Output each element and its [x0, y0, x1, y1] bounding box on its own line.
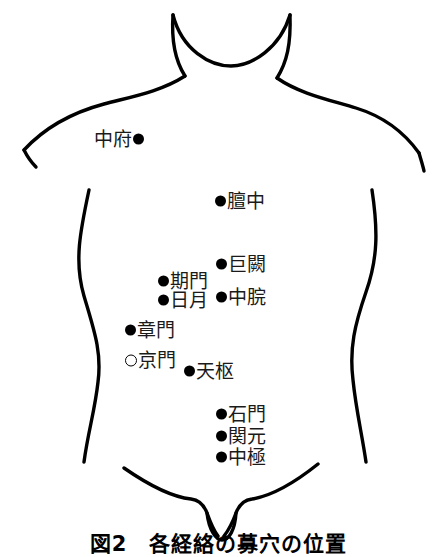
acupoint-jingmen[interactable]: 京門 — [125, 351, 176, 370]
acupoint-marker-zhongji — [216, 452, 227, 463]
acupoint-label-zhongwan: 中脘 — [228, 288, 266, 307]
acupoint-zhongfu[interactable]: 中府 — [94, 130, 144, 149]
left-torso-line — [79, 190, 99, 462]
right-groin-line — [224, 464, 318, 536]
acupoint-label-zhangmen: 章門 — [137, 321, 175, 340]
left-arm-line — [24, 150, 36, 167]
left-groin-line — [124, 468, 218, 536]
acupoint-label-guanyuan: 関元 — [228, 427, 266, 446]
acupoint-label-shimen: 石門 — [228, 405, 266, 424]
figure-caption: 図2 各経絡の募穴の位置 — [0, 527, 437, 557]
acupoint-marker-zhongfu — [133, 134, 144, 145]
right-shoulder-line — [277, 78, 419, 153]
acupoint-label-riyue: 日月 — [170, 291, 208, 310]
acupoint-danzhong[interactable]: 膻中 — [215, 192, 265, 211]
acupoint-label-jingmen: 京門 — [138, 351, 176, 370]
acupoint-tianshu[interactable]: 天枢 — [184, 362, 234, 381]
acupoint-label-danzhong: 膻中 — [227, 192, 265, 211]
acupoint-marker-riyue — [158, 295, 169, 306]
acupoint-shimen[interactable]: 石門 — [216, 405, 266, 424]
acupoint-label-zhongji: 中極 — [228, 448, 266, 467]
jaw-underside-line — [173, 15, 290, 66]
acupoint-zhangmen[interactable]: 章門 — [125, 321, 175, 340]
acupoint-zhongji[interactable]: 中極 — [216, 448, 266, 467]
acupoint-juque[interactable]: 巨闕 — [216, 255, 266, 274]
right-torso-line — [352, 190, 376, 462]
acupoint-marker-shimen — [216, 409, 227, 420]
acupoint-riyue[interactable]: 日月 — [158, 291, 208, 310]
acupoint-marker-danzhong — [215, 196, 226, 207]
acupoint-label-tianshu: 天枢 — [196, 362, 234, 381]
acupoint-marker-tianshu — [184, 366, 195, 377]
acupoint-label-juque: 巨闕 — [228, 255, 266, 274]
acupoint-zhongwan[interactable]: 中脘 — [216, 288, 266, 307]
acupoint-marker-qimen — [158, 276, 169, 287]
acupoint-guanyuan[interactable]: 関元 — [216, 427, 266, 446]
right-arm-line — [419, 153, 424, 171]
acupoint-marker-juque — [216, 259, 227, 270]
acupoint-marker-guanyuan — [216, 431, 227, 442]
acupoint-marker-zhongwan — [216, 292, 227, 303]
acupoint-marker-zhangmen — [125, 325, 136, 336]
acupoint-marker-jingmen — [125, 354, 137, 366]
acupoint-label-zhongfu: 中府 — [94, 130, 132, 149]
